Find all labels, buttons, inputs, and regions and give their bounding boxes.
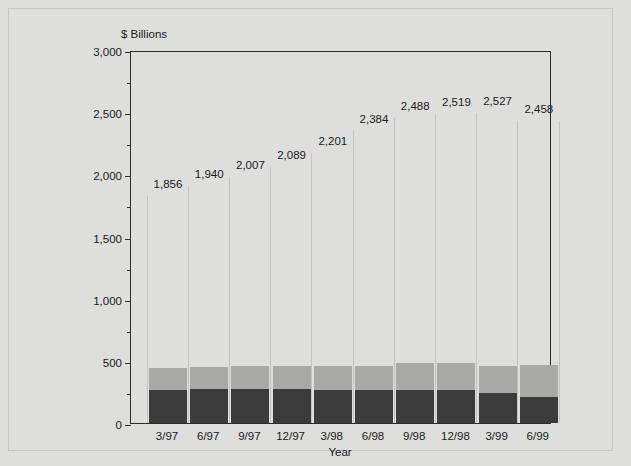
y-tick-label: 0 xyxy=(116,419,122,431)
bar-separator xyxy=(435,114,436,423)
y-tick-label: 1,500 xyxy=(93,233,122,245)
bar-segment-lower xyxy=(355,390,393,423)
x-tick-label: 12/98 xyxy=(441,430,470,442)
bar xyxy=(314,366,352,423)
y-tick-major xyxy=(125,114,131,115)
bar-segment-lower xyxy=(396,390,434,423)
bar xyxy=(149,368,187,423)
bar-segment-upper xyxy=(314,366,352,390)
y-tick-major xyxy=(125,301,131,302)
bar-separator xyxy=(188,186,189,423)
x-tick-label: 3/97 xyxy=(156,430,178,442)
x-tick-label: 9/97 xyxy=(238,430,260,442)
bar-segment-lower xyxy=(149,390,187,423)
bar-segment-lower xyxy=(437,390,475,423)
y-tick-label: 3,000 xyxy=(93,46,122,58)
y-tick-label: 500 xyxy=(103,357,122,369)
x-tick-label: 3/99 xyxy=(485,430,507,442)
y-tick-major xyxy=(125,363,131,364)
bar-separator xyxy=(476,113,477,423)
y-tick-label: 2,500 xyxy=(93,108,122,120)
data-label: 2,384 xyxy=(360,113,389,125)
data-label: 2,519 xyxy=(442,96,471,108)
y-tick-minor xyxy=(127,207,131,208)
bar-separator xyxy=(394,118,395,423)
bar-segment-upper xyxy=(355,366,393,390)
bar-segment-upper xyxy=(520,365,558,397)
x-tick-label: 9/98 xyxy=(403,430,425,442)
bar xyxy=(355,366,393,423)
bar-segment-upper xyxy=(149,368,187,390)
bar-segment-lower xyxy=(231,389,269,423)
bar xyxy=(273,366,311,423)
data-label: 2,488 xyxy=(401,100,430,112)
bar xyxy=(479,366,517,423)
y-tick-minor xyxy=(127,83,131,84)
bar xyxy=(231,366,269,423)
bar-segment-upper xyxy=(190,367,228,389)
y-axis-title: $ Billions xyxy=(121,28,167,40)
bar xyxy=(437,363,475,423)
bar xyxy=(190,367,228,423)
y-tick-label: 1,000 xyxy=(93,295,122,307)
bar-segment-lower xyxy=(479,393,517,423)
bar xyxy=(520,365,558,423)
bar-separator xyxy=(559,121,560,423)
bar-segment-lower xyxy=(314,390,352,423)
y-tick-major xyxy=(125,425,131,426)
bar-segment-upper xyxy=(479,366,517,393)
bar-separator xyxy=(147,196,148,423)
y-tick-minor xyxy=(127,332,131,333)
y-tick-minor xyxy=(127,394,131,395)
bar-separator xyxy=(353,131,354,423)
data-label: 2,089 xyxy=(277,149,306,161)
bar-segment-lower xyxy=(520,397,558,423)
bar-segment-upper xyxy=(231,366,269,389)
bar-segment-lower xyxy=(190,389,228,423)
bar-segment-upper xyxy=(273,366,311,389)
x-tick-label: 6/98 xyxy=(362,430,384,442)
bar-separator xyxy=(311,153,312,423)
bar-segment-upper xyxy=(437,363,475,390)
y-tick-major xyxy=(125,176,131,177)
chart-frame: $ Billions 05001,0001,5002,0002,5003,000… xyxy=(8,8,613,451)
y-tick-major xyxy=(125,52,131,53)
y-tick-major xyxy=(125,239,131,240)
bar xyxy=(396,363,434,423)
x-tick-label: 6/99 xyxy=(527,430,549,442)
bar-separator xyxy=(229,177,230,423)
data-label: 1,940 xyxy=(195,168,224,180)
y-tick-label: 2,000 xyxy=(93,170,122,182)
plot-area: 05001,0001,5002,0002,5003,000 1,8561,940… xyxy=(130,51,551,424)
data-label: 1,856 xyxy=(154,178,183,190)
bar-separator xyxy=(270,167,271,423)
x-tick-label: 6/97 xyxy=(197,430,219,442)
x-axis-title: Year xyxy=(328,446,351,458)
bar-separator xyxy=(517,121,518,423)
data-label: 2,458 xyxy=(524,103,553,115)
data-label: 2,527 xyxy=(483,95,512,107)
data-label: 2,007 xyxy=(236,159,265,171)
y-tick-minor xyxy=(127,145,131,146)
x-tick-label: 3/98 xyxy=(321,430,343,442)
bar-segment-lower xyxy=(273,389,311,423)
bar-segment-upper xyxy=(396,363,434,390)
data-label: 2,201 xyxy=(318,135,347,147)
y-tick-minor xyxy=(127,270,131,271)
x-tick-label: 12/97 xyxy=(276,430,305,442)
